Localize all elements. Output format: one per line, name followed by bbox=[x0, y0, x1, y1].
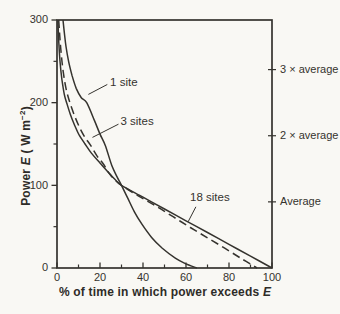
x-axis-title: % of time in which power exceeds E bbox=[57, 285, 273, 299]
x-tick-label: 20 bbox=[94, 271, 106, 283]
y-axis-title: Power E ( W m−2) bbox=[18, 106, 33, 206]
x-tick-label: 80 bbox=[223, 271, 235, 283]
figure: 02040608010001002003003 × average2 × ave… bbox=[0, 0, 340, 314]
y-tick-label: 300 bbox=[30, 13, 48, 25]
right-axis-label: 3 × average bbox=[280, 63, 338, 75]
y-axis-unit-exponent: −2 bbox=[18, 110, 27, 120]
curve-3-sites bbox=[59, 20, 257, 268]
duration-curves-chart: 02040608010001002003003 × average2 × ave… bbox=[0, 0, 340, 314]
series-label-3-sites: 3 sites bbox=[120, 115, 153, 127]
y-axis-title-word: Power bbox=[19, 165, 33, 206]
leader-line-1-site bbox=[88, 84, 107, 94]
x-tick-label: 0 bbox=[54, 271, 60, 283]
y-axis-unit-close: ) bbox=[19, 106, 33, 110]
x-axis-symbol: E bbox=[263, 285, 271, 299]
x-tick-label: 40 bbox=[137, 271, 149, 283]
x-tick-label: 60 bbox=[180, 271, 192, 283]
curve-1-site bbox=[63, 20, 197, 268]
leader-line-18-sites bbox=[188, 207, 196, 222]
series-label-1-site: 1 site bbox=[110, 76, 138, 88]
y-axis-unit: ( W m bbox=[19, 120, 33, 157]
x-axis-title-text: % of time in which power exceeds bbox=[59, 285, 263, 299]
x-tick-label: 100 bbox=[263, 271, 281, 283]
y-tick-label: 0 bbox=[42, 261, 48, 273]
right-axis-label: 2 × average bbox=[280, 129, 338, 141]
series-label-18-sites: 18 sites bbox=[190, 191, 230, 203]
right-axis-label: Average bbox=[280, 195, 321, 207]
y-axis-symbol: E bbox=[19, 157, 33, 165]
